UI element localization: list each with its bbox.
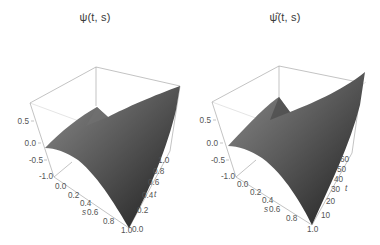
plot-panel-psi: ψ(t, s) bbox=[0, 0, 190, 245]
svg-text:s: s bbox=[264, 205, 268, 214]
svg-text:0.2: 0.2 bbox=[137, 206, 149, 215]
svg-text:50: 50 bbox=[337, 165, 347, 174]
svg-text:1.0: 1.0 bbox=[307, 225, 319, 234]
svg-text:0.8: 0.8 bbox=[103, 217, 115, 226]
svg-text:40: 40 bbox=[334, 175, 344, 184]
svg-text:60: 60 bbox=[340, 155, 350, 164]
z-axis-ticks: 0.5 0.0 -0.5 -1.0 bbox=[18, 117, 54, 181]
svg-text:-1.0: -1.0 bbox=[39, 172, 54, 181]
svg-text:0.4: 0.4 bbox=[262, 196, 274, 205]
surface-psi-hat bbox=[228, 72, 365, 225]
svg-text:10: 10 bbox=[321, 211, 331, 220]
box-edge bbox=[279, 66, 358, 82]
box-edge bbox=[54, 162, 72, 177]
svg-text:s: s bbox=[82, 208, 86, 217]
svg-text:-0.5: -0.5 bbox=[29, 156, 44, 165]
svg-text:30: 30 bbox=[331, 185, 341, 194]
svg-text:0.4: 0.4 bbox=[142, 191, 154, 200]
svg-text:0.2: 0.2 bbox=[68, 191, 80, 200]
svg-text:0.6: 0.6 bbox=[87, 208, 99, 217]
svg-text:0.0: 0.0 bbox=[132, 225, 144, 234]
svg-text:0.0: 0.0 bbox=[237, 180, 249, 189]
box-edge bbox=[96, 67, 180, 86]
surface-plot-psi-hat: 0.5 0.0 -0.5 -1.0 0.0 0.2 0.4 s 0.6 0.8 … bbox=[190, 0, 380, 245]
svg-text:1.0: 1.0 bbox=[158, 156, 170, 165]
box-edge bbox=[236, 160, 256, 177]
svg-text:0.5: 0.5 bbox=[18, 117, 30, 126]
svg-text:0.2: 0.2 bbox=[250, 188, 262, 197]
box-edge bbox=[30, 67, 96, 103]
svg-text:t: t bbox=[345, 184, 348, 193]
svg-text:-1.0: -1.0 bbox=[221, 172, 236, 181]
svg-text:0.4: 0.4 bbox=[80, 199, 92, 208]
svg-text:20: 20 bbox=[326, 197, 336, 206]
surface-plot-psi: 0.5 0.0 -0.5 -1.0 0.0 0.2 0.4 s 0.6 0.8 … bbox=[0, 0, 190, 245]
svg-text:0.8: 0.8 bbox=[286, 214, 298, 223]
svg-text:0.5: 0.5 bbox=[200, 116, 212, 125]
svg-text:0.0: 0.0 bbox=[207, 139, 219, 148]
svg-text:-0.5: -0.5 bbox=[211, 156, 226, 165]
svg-text:0.0: 0.0 bbox=[55, 182, 67, 191]
plot-panel-psi-hat: ψ̂(t, s) 0.5 0.0 -0.5 -1.0 bbox=[190, 0, 380, 245]
svg-text:0.0: 0.0 bbox=[25, 139, 37, 148]
box-edge bbox=[212, 66, 279, 102]
svg-text:0.6: 0.6 bbox=[148, 178, 160, 187]
z-axis-ticks: 0.5 0.0 -0.5 -1.0 bbox=[200, 116, 236, 181]
svg-text:0.8: 0.8 bbox=[153, 167, 165, 176]
svg-text:0.6: 0.6 bbox=[269, 205, 281, 214]
svg-text:t: t bbox=[154, 190, 157, 199]
